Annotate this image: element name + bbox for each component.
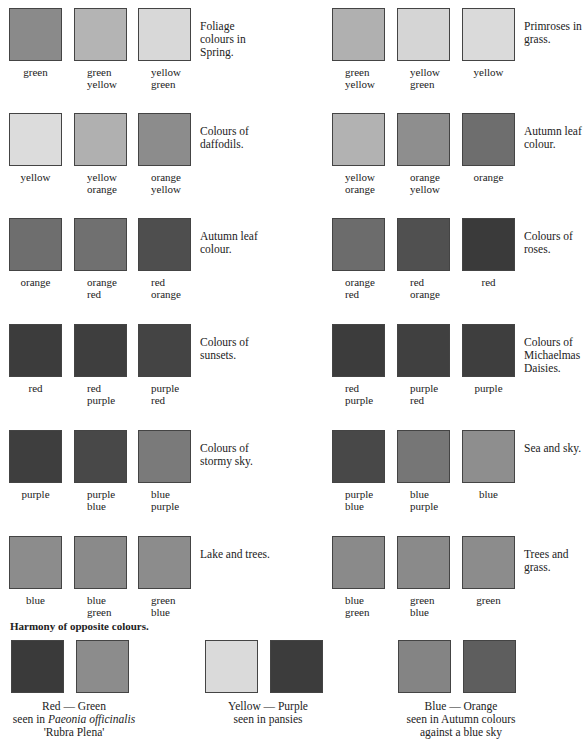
harmony-example: seen in Autumn colours [371,713,551,726]
colour-swatch [462,430,515,483]
harmony-swatch [76,640,129,693]
colour-swatch [332,430,385,483]
colour-swatch [74,218,127,271]
colour-swatch [74,8,127,61]
swatch-label: bluegreen [345,594,415,618]
colour-swatch [9,430,62,483]
group-description: Colours of daffodils. [200,125,270,151]
colour-swatch [9,536,62,589]
harmony-caption: Red — Greenseen in Paeonia officinalis'R… [0,700,164,739]
swatch-label: red [9,382,62,394]
swatch-label: redpurple [87,382,157,406]
group-description: Autumn leaf colour. [200,230,270,256]
swatch-label: purplered [151,382,221,406]
colour-swatch [74,113,127,166]
swatch-label: orange [462,171,515,183]
colour-swatch [397,430,450,483]
harmony-pair-label: Yellow — Purple [178,700,358,713]
harmony-swatch [463,640,516,693]
group-description: Colours of stormy sky. [200,442,270,468]
swatch-label: redpurple [345,382,415,406]
harmony-example: seen in pansies [178,713,358,726]
colour-swatch [138,113,191,166]
harmony-swatch [398,640,451,693]
swatch-label: blue [9,594,62,606]
swatch-label: bluegreen [87,594,157,618]
colour-swatch [74,324,127,377]
swatch-label: redorange [151,276,221,300]
colour-swatch [397,218,450,271]
colour-swatch [332,8,385,61]
swatch-label: orangered [345,276,415,300]
swatch-label: red [462,276,515,288]
group-description: Foliage colours in Spring. [200,20,270,59]
harmony-pair-label: Red — Green [0,700,164,713]
swatch-label: orangered [87,276,157,300]
swatch-label: blue [462,488,515,500]
swatch-label: greenyellow [345,66,415,90]
colour-swatch [138,536,191,589]
harmony-caption: Blue — Orangeseen in Autumn coloursagain… [371,700,551,739]
colour-swatch [9,8,62,61]
harmony-example: seen in Paeonia officinalis [0,713,164,726]
colour-swatch [74,430,127,483]
colour-swatch [462,536,515,589]
group-description: Colours of sunsets. [200,336,270,362]
group-description: Autumn leaf colour. [524,125,588,151]
harmony-title: Harmony of opposite colours. [10,620,149,632]
swatch-label: greenyellow [87,66,157,90]
swatch-label: yellowgreen [151,66,221,90]
colour-swatch [397,113,450,166]
colour-swatch [138,218,191,271]
swatch-label: yelloworange [345,171,415,195]
harmony-swatch [270,640,323,693]
colour-swatch [138,430,191,483]
swatch-label: bluepurple [151,488,221,512]
swatch-label: yelloworange [87,171,157,195]
group-description: Colours of Michaelmas Daisies. [524,336,588,375]
group-description: Sea and sky. [524,442,588,455]
colour-swatch [9,218,62,271]
colour-swatch [9,113,62,166]
colour-swatch [138,324,191,377]
swatch-label: greenblue [151,594,221,618]
group-description: Colours of roses. [524,230,588,256]
harmony-swatch [205,640,258,693]
harmony-pair-label: Blue — Orange [371,700,551,713]
group-description: Trees and grass. [524,548,588,574]
colour-swatch [397,536,450,589]
swatch-label: purpleblue [87,488,157,512]
harmony-swatch [11,640,64,693]
colour-swatch [462,324,515,377]
group-description: Primroses in grass. [524,20,588,46]
harmony-example-cont: 'Rubra Plena' [0,726,164,739]
harmony-caption: Yellow — Purpleseen in pansies [178,700,358,726]
colour-swatch [9,324,62,377]
swatch-label: orange [9,276,62,288]
swatch-label: green [9,66,62,78]
colour-swatch [462,218,515,271]
swatch-label: yellow [462,66,515,78]
swatch-label: orangeyellow [151,171,221,195]
colour-swatch [397,8,450,61]
swatch-label: purple [462,382,515,394]
colour-swatch [332,324,385,377]
group-description: Lake and trees. [200,548,270,561]
colour-swatch [332,218,385,271]
colour-swatch [462,8,515,61]
swatch-label: purpleblue [345,488,415,512]
colour-swatch [332,536,385,589]
swatch-label: yellow [9,171,62,183]
colour-swatch [397,324,450,377]
colour-swatch [462,113,515,166]
colour-swatch [332,113,385,166]
colour-swatch [138,8,191,61]
harmony-example-cont: against a blue sky [371,726,551,739]
swatch-label: green [462,594,515,606]
swatch-label: purple [9,488,62,500]
colour-swatch [74,536,127,589]
